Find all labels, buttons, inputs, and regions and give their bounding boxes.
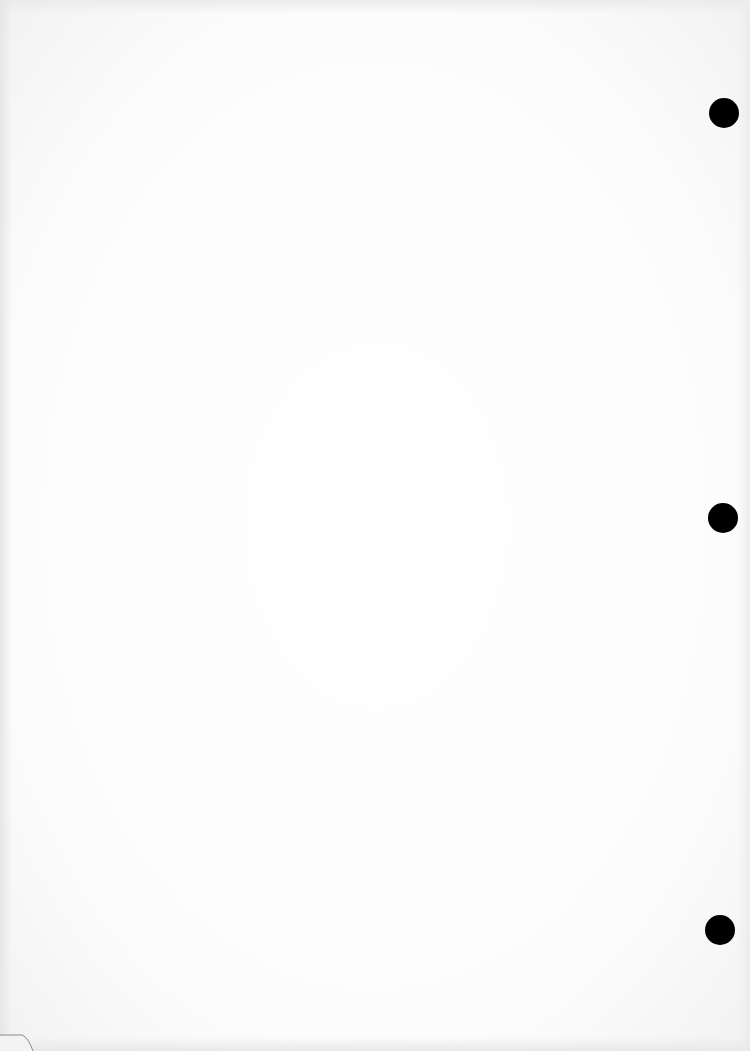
punch-hole-bottom-icon [705, 915, 735, 945]
scan-edge-top [0, 0, 750, 14]
scanned-page [0, 0, 750, 1051]
scan-edge-right [738, 0, 750, 1051]
scan-edge-bottom [0, 1037, 750, 1051]
scan-edge-left [0, 0, 12, 1051]
punch-hole-middle-icon [708, 503, 738, 533]
punch-hole-top-icon [709, 98, 739, 128]
corner-fold-icon [0, 1027, 34, 1051]
